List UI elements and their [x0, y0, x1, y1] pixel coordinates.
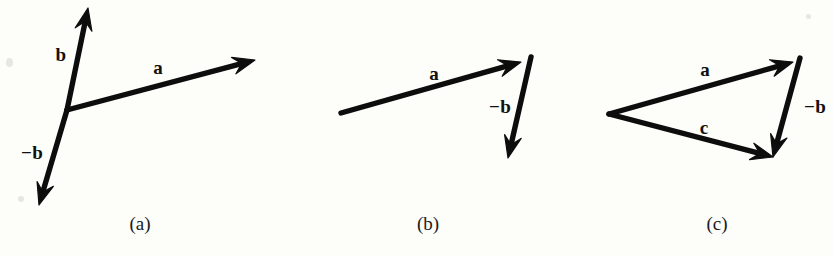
vector-shaft-b-panel-a — [67, 24, 85, 110]
vector-label-a-panel-c: a — [700, 59, 710, 81]
panel-caption-c: (c) — [706, 213, 727, 235]
vector-label-b-panel-a: b — [56, 44, 67, 66]
vector-shaft-a-panel-b — [341, 66, 506, 113]
vector-label-c-panel-c: c — [700, 117, 709, 139]
panel-caption-b: (b) — [417, 213, 439, 235]
vector-shaft-a-panel-c — [609, 66, 778, 114]
vector-shaft-c-panel-c — [609, 114, 758, 153]
vector-label-a-panel-b: a — [429, 63, 439, 85]
vector-label-minus-b-panel-c: −b — [804, 96, 826, 118]
vector-label-minus-b-panel-a: −b — [21, 142, 43, 164]
panel-caption-a: (a) — [129, 213, 150, 235]
vector-shaft-minus-b-panel-b — [512, 57, 531, 143]
vector-label-minus-b-panel-b: −b — [489, 96, 511, 118]
vector-diagram-figure: b a −b (a) a −b (b) a −b c (c) — [0, 0, 834, 256]
vector-shaft-minus-b-panel-a — [43, 110, 67, 190]
vector-label-a-panel-a: a — [153, 57, 163, 79]
